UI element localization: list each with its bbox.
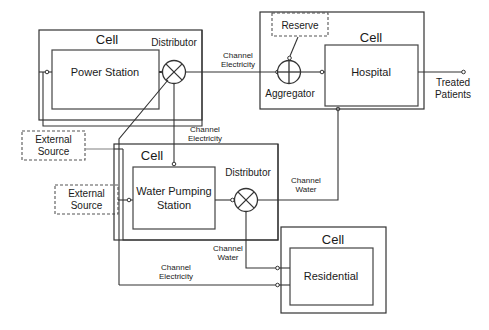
- port-water-station-in: [127, 198, 131, 202]
- channel-electricity-residential-label-2: Electricity: [159, 272, 193, 281]
- cell-hospital-title: Cell: [360, 30, 383, 45]
- treated-patients-label-line2: Patients: [435, 89, 471, 100]
- hospital-label: Hospital: [351, 66, 391, 78]
- distributor-water-label: Distributor: [225, 167, 271, 178]
- cell-power-title: Cell: [96, 32, 119, 47]
- cell-residential-title: Cell: [322, 232, 345, 247]
- system-diagram: Cell Power Station Distributor Channel E…: [0, 0, 489, 330]
- water-pumping-station-label-line1: Water Pumping: [136, 185, 211, 197]
- channel-electricity-water-label-2: Electricity: [188, 134, 222, 143]
- channel-water-residential-label-1: Channel: [213, 244, 243, 253]
- water-pumping-station-box: [133, 167, 215, 229]
- channel-electricity-hospital-label-1: Channel: [223, 51, 253, 60]
- cell-water-title: Cell: [141, 148, 164, 163]
- wire-dist-power-diagonal-to-residential: [119, 80, 168, 285]
- channel-water-residential-label-2: Water: [217, 253, 238, 262]
- channel-electricity-hospital-label-2: Electricity: [221, 60, 255, 69]
- port-hospital-in: [320, 70, 324, 74]
- port-water-cell-elec-in: [172, 162, 176, 166]
- channel-water-hospital-label-2: Water: [295, 185, 316, 194]
- port-residential-elec-in: [276, 283, 280, 287]
- aggregator-label: Aggregator: [265, 88, 315, 99]
- port-residential-water-in: [276, 266, 280, 270]
- power-station-label: Power Station: [71, 66, 139, 78]
- external-source-2-label-line2: Source: [71, 200, 103, 211]
- external-source-2-label-line1: External: [68, 188, 105, 199]
- power-station-box: [52, 50, 159, 109]
- treated-patients-label-line1: Treated: [436, 77, 470, 88]
- residential-label: Residential: [304, 270, 358, 282]
- port-power-station-in: [45, 70, 49, 74]
- channel-water-hospital-label-1: Channel: [291, 176, 321, 185]
- external-source-1-label-line2: Source: [38, 146, 70, 157]
- external-source-1-label-line1: External: [35, 134, 72, 145]
- distributor-power-label: Distributor: [151, 37, 197, 48]
- port-treated-patients-out: [462, 70, 466, 74]
- water-pumping-station-label-line2: Station: [157, 199, 191, 211]
- port-distributor-water-in: [231, 198, 235, 202]
- channel-electricity-residential-label-1: Channel: [161, 263, 191, 272]
- wire-reserve-to-aggregator: [290, 37, 298, 56]
- port-aggregator-reserve-in: [288, 56, 292, 60]
- reserve-label: Reserve: [281, 20, 319, 31]
